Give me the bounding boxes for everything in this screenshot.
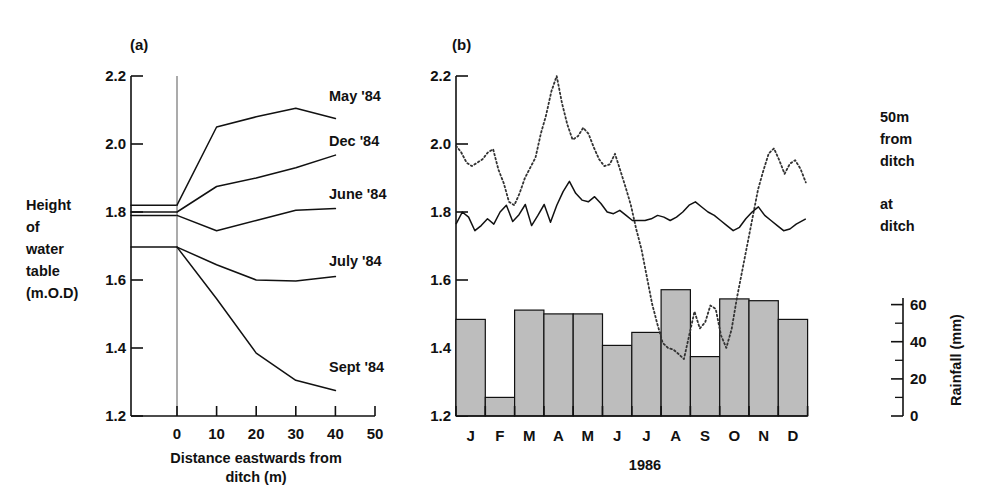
panel-b-xtick-jun: J (613, 427, 621, 444)
panel-a-ylabel-line-1: Height (26, 197, 71, 213)
panel-a-xlabel-line-1: Distance eastwards from (170, 450, 342, 466)
panel-a-y-ticks (131, 76, 143, 416)
panel-a-ytick-5: 2.0 (105, 135, 126, 152)
panel-a-level-stubs (131, 205, 177, 247)
panel-a-ytick-1: 1.2 (105, 407, 126, 424)
panel-b-right-axis-title: Rainfall (mm) (948, 314, 964, 406)
panel-b-xtick-feb: F (495, 427, 504, 444)
rainfall-bar-dec (778, 319, 807, 416)
panel-a-xtick-10: 10 (208, 425, 225, 442)
panel-a-xtick-50: 50 (367, 425, 384, 442)
panel-a-curve-july (177, 247, 335, 281)
panel-b-xtick-nov: N (758, 427, 769, 444)
panel-b-ytick-2: 1.4 (430, 339, 452, 356)
rainfall-bar-jul (632, 332, 661, 416)
figure-svg: (a) 1.2 1.4 1.6 1.8 2.0 2.2 Height of wa… (0, 0, 994, 499)
panel-b-rtick-0: 0 (910, 407, 918, 424)
panel-b-rtick-40: 40 (910, 333, 927, 350)
panel-a-ylabel-line-2: of (26, 219, 40, 235)
panel-b-tag: (b) (452, 36, 471, 53)
panel-b-ytick-3: 1.6 (430, 271, 451, 288)
panel-b-xtick-mar: M (523, 427, 536, 444)
panel-a-xtick-20: 20 (248, 425, 265, 442)
rainfall-bar-jan (456, 319, 485, 416)
panel-b-rtick-20: 20 (910, 370, 927, 387)
panel-b-xtick-aug: A (670, 427, 681, 444)
figure-container: (a) 1.2 1.4 1.6 1.8 2.0 2.2 Height of wa… (0, 0, 994, 499)
panel-a-xtick-0: 0 (173, 425, 181, 442)
panel-a-xtick-40: 40 (327, 425, 344, 442)
rainfall-bar-may (573, 314, 602, 416)
panel-a-ytick-4: 1.8 (105, 203, 126, 220)
panel-b-ytick-5: 2.0 (430, 135, 451, 152)
panel-a-x-ticks (177, 406, 375, 416)
panel-a-curve-sept (177, 247, 335, 390)
panel-b-xtick-may: M (582, 427, 595, 444)
panel-a-tag: (a) (130, 36, 148, 53)
rainfall-bar-feb (485, 397, 514, 416)
panel-a-label-sept: Sept '84 (329, 359, 384, 375)
panel-b-rtick-60: 60 (910, 296, 927, 313)
panel-a: (a) 1.2 1.4 1.6 1.8 2.0 2.2 Height of wa… (25, 36, 386, 485)
panel-b-label-50m-line-1: 50m (880, 109, 909, 125)
panel-a-ylabel-line-4: table (26, 263, 60, 279)
rainfall-bar-nov (749, 301, 778, 416)
panel-a-label-june: June '84 (329, 186, 386, 202)
panel-a-ylabel-line-3: water (25, 241, 64, 257)
panel-a-xlabel-line-2: ditch (m) (225, 469, 286, 485)
panel-a-curve-june (177, 209, 335, 231)
panel-b-label-50m-line-3: ditch (880, 153, 915, 169)
panel-b-xtick-apr: A (553, 427, 564, 444)
panel-b-label-at-ditch-line-2: ditch (880, 218, 915, 234)
panel-b-xtick-dec: D (787, 427, 798, 444)
rainfall-bar-sep (690, 357, 719, 416)
panel-b-rainfall-bars (456, 290, 808, 416)
panel-b-label-50m-line-2: from (880, 131, 912, 147)
panel-b: (b) 1.2 1.4 1.6 1.8 2.0 2.2 (430, 36, 964, 473)
panel-b-xtick-jul: J (642, 427, 650, 444)
panel-a-ytick-2: 1.4 (105, 339, 127, 356)
panel-a-ytick-6: 2.2 (105, 67, 126, 84)
panel-b-ytick-6: 2.2 (430, 67, 451, 84)
panel-a-curve-may (177, 108, 335, 205)
rainfall-bar-jun (603, 345, 632, 416)
panel-b-xtick-oct: O (728, 427, 740, 444)
panel-b-right-ticks (891, 305, 903, 416)
panel-b-xtick-sep: S (700, 427, 710, 444)
rainfall-bar-mar (515, 310, 544, 416)
panel-a-label-dec: Dec '84 (329, 133, 379, 149)
rainfall-bar-aug (661, 290, 690, 416)
panel-a-ytick-3: 1.6 (105, 271, 126, 288)
panel-a-curve-dec (177, 155, 335, 212)
panel-b-xtick-jan: J (466, 427, 474, 444)
panel-b-ytick-4: 1.8 (430, 203, 451, 220)
panel-b-xlabel: 1986 (629, 457, 661, 473)
panel-a-label-july: July '84 (329, 253, 382, 269)
panel-a-label-may: May '84 (329, 88, 381, 104)
panel-a-ylabel-line-5: (m.O.D) (26, 285, 79, 301)
panel-b-label-at-ditch-line-1: at (880, 196, 893, 212)
rainfall-bar-apr (544, 314, 573, 416)
panel-b-ytick-1: 1.2 (430, 407, 451, 424)
panel-a-xtick-30: 30 (287, 425, 304, 442)
